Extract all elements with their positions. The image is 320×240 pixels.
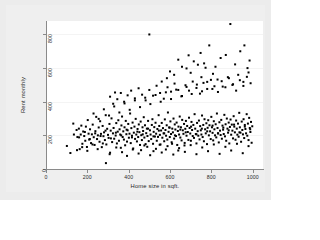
data-point [160,101,162,103]
data-point [188,117,190,119]
data-point [200,52,202,54]
data-point [241,129,243,131]
x-axis-title: Home size in sqft. [46,183,264,189]
data-point [85,126,87,128]
data-point [230,150,232,152]
data-point [204,118,206,120]
data-point [177,126,179,128]
data-point [66,145,68,147]
data-point [215,123,217,125]
data-point [131,136,133,138]
data-point [172,154,174,156]
data-point [108,137,110,139]
data-point [172,131,174,133]
data-point [239,126,241,128]
x-tick-label: 0 [45,174,48,180]
data-point [197,135,199,137]
data-point [239,79,241,81]
data-point [137,128,139,130]
data-point [247,67,249,69]
data-point [212,73,214,75]
data-point [243,137,245,139]
data-point [244,126,246,128]
data-point [161,137,163,139]
data-point [198,120,200,122]
data-point [169,70,171,72]
data-point [136,131,138,133]
data-point [113,127,115,129]
data-point [99,141,101,143]
data-point [152,143,154,145]
data-point [78,136,80,138]
data-point [144,97,146,99]
data-point [125,120,127,122]
data-point [81,143,83,145]
data-point [116,142,118,144]
data-point [113,138,115,140]
data-point [169,120,171,122]
data-point [104,139,106,141]
data-point [167,145,169,147]
data-point [173,118,175,120]
data-point [179,116,181,118]
data-point [102,135,104,137]
data-point [158,130,160,132]
data-point [235,139,237,141]
data-point [150,138,152,140]
y-tick-label: 400 [47,102,53,111]
data-point [140,149,142,151]
data-point [215,136,217,138]
data-point [130,142,132,144]
data-point [192,124,194,126]
data-point [112,132,114,134]
data-point [101,146,103,148]
data-point [181,119,183,121]
data-point [170,91,172,93]
data-point [138,123,140,125]
data-point [120,147,122,149]
data-point [249,60,251,62]
data-point [203,140,205,142]
data-point [195,133,197,135]
data-point [236,134,238,136]
data-point [83,135,85,137]
data-point [231,130,233,132]
data-point [250,82,252,84]
data-point [162,127,164,129]
data-point [132,122,134,124]
data-point [149,103,151,105]
data-point [210,138,212,140]
data-point [145,132,147,134]
data-point [188,54,190,56]
data-point [186,135,188,137]
data-point [190,140,192,142]
data-point [116,98,118,100]
data-point [122,130,124,132]
data-point [197,64,199,66]
data-point [166,77,168,79]
data-point [184,142,186,144]
data-point [86,150,88,152]
y-tick-label: 200 [47,135,53,144]
data-point [157,136,159,138]
data-point [178,134,180,136]
data-point [199,138,201,140]
data-point [183,144,185,146]
data-point [148,140,150,142]
data-point [164,118,166,120]
data-point [72,123,74,125]
x-tick [87,170,88,173]
data-point [201,90,203,92]
data-point [92,124,94,126]
data-point [238,131,240,133]
data-point [181,139,183,141]
data-point [214,134,216,136]
data-point [117,119,119,121]
data-point [94,130,96,132]
data-point [197,130,199,132]
x-tick-label: 600 [166,174,175,180]
data-point [134,99,136,101]
data-point [217,132,219,134]
data-point [196,122,198,124]
data-point [153,131,155,133]
